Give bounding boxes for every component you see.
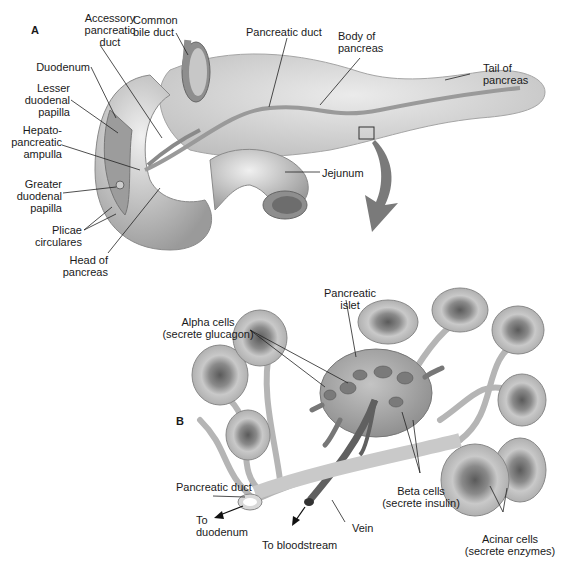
label-common-bile-duct: Common bile duct <box>133 14 178 38</box>
label-tail-of-pancreas: Tail of pancreas <box>483 62 528 86</box>
label-head-of-pancreas: Head of pancreas <box>50 254 108 278</box>
label-alpha-cells: Alpha cells (secrete glucagon) <box>160 316 256 340</box>
label-to-bloodstream: To bloodstream <box>262 539 337 551</box>
label-pancreatic-duct-a: Pancreatic duct <box>246 26 322 38</box>
label-pancreatic-duct-b: Pancreatic duct <box>176 481 252 493</box>
label-acinar-cells: Acinar cells (secrete enzymes) <box>458 533 562 557</box>
label-to-duodenum: To duodenum <box>196 514 248 538</box>
label-vein: Vein <box>352 522 373 534</box>
label-hepatopancreatic-ampulla: Hepato- pancreatic ampulla <box>0 124 62 160</box>
pancreas-illustration <box>0 0 563 565</box>
panel-a-letter: A <box>31 24 39 36</box>
label-beta-cells: Beta cells (secrete insulin) <box>374 485 468 509</box>
panel-a-drawing <box>95 40 545 250</box>
label-pancreatic-islet: Pancreatic islet <box>315 287 385 311</box>
label-greater-duodenal-papilla: Greater duodenal papilla <box>0 178 62 214</box>
label-lesser-duodenal-papilla: Lesser duodenal papilla <box>10 82 70 118</box>
panel-b-letter: B <box>176 415 184 427</box>
label-duodenum: Duodenum <box>20 61 90 73</box>
label-plicae-circulares: Plicae circulares <box>20 224 82 248</box>
label-body-of-pancreas: Body of pancreas <box>338 30 383 54</box>
label-jejunum: Jejunum <box>322 167 364 179</box>
